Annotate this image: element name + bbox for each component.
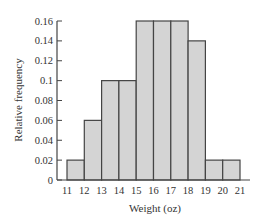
histogram-bar — [205, 160, 222, 180]
x-tick-label: 20 — [217, 185, 228, 196]
y-tick-label: 0.04 — [35, 135, 54, 146]
y-tick-label: 0.14 — [35, 35, 54, 46]
histogram-bar — [223, 160, 240, 180]
y-tick-label: 0 — [48, 175, 53, 186]
x-tick-label: 13 — [96, 185, 107, 196]
histogram-bar — [67, 160, 84, 180]
x-tick-label: 18 — [183, 185, 194, 196]
x-tick-label: 15 — [131, 185, 142, 196]
x-tick-label: 21 — [235, 185, 246, 196]
bars-group — [67, 21, 240, 180]
histogram-bar — [188, 41, 205, 180]
x-tick-label: 14 — [114, 185, 125, 196]
histogram-bar — [84, 120, 101, 180]
histogram-bar — [136, 21, 153, 180]
y-tick-label: 0.16 — [35, 16, 53, 27]
y-tick-label: 0.02 — [35, 155, 53, 166]
histogram-bar — [154, 21, 171, 180]
x-tick-label: 12 — [79, 185, 90, 196]
y-tick-label: 0.08 — [35, 95, 53, 106]
y-tick-label: 0.1 — [40, 75, 53, 86]
histogram-bar — [102, 81, 119, 180]
y-tick-label: 0.06 — [35, 115, 53, 126]
x-tick-label: 17 — [166, 185, 177, 196]
y-axis: 00.020.040.060.080.10.120.140.16 — [35, 16, 62, 186]
histogram-chart: 00.020.040.060.080.10.120.140.16 1112131… — [0, 0, 262, 219]
y-axis-title: Relative frequency — [12, 58, 24, 142]
x-tick-label: 11 — [62, 185, 72, 196]
x-axis: 1112131415161718192021 — [57, 180, 250, 196]
y-tick-label: 0.12 — [35, 55, 53, 66]
histogram-bar — [119, 81, 136, 180]
x-tick-label: 16 — [148, 185, 159, 196]
x-tick-label: 19 — [200, 185, 211, 196]
histogram-bar — [171, 21, 188, 180]
x-axis-title: Weight (oz) — [129, 202, 181, 215]
